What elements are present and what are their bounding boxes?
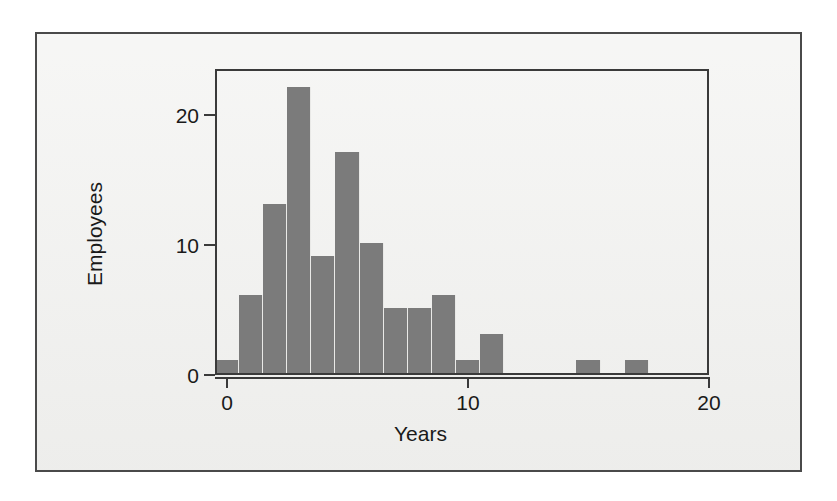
histogram-bar: [287, 87, 311, 373]
y-axis-title: Employees: [83, 154, 107, 314]
histogram-bar: [239, 295, 263, 373]
plot-frame: [215, 69, 709, 375]
histogram-bar: [360, 243, 384, 373]
histogram-bar: [432, 295, 456, 373]
histogram-bar: [456, 360, 480, 373]
histogram-bar: [335, 152, 359, 373]
x-axis-tick-label: 10: [456, 392, 479, 413]
y-axis-tick-labels: 01020: [135, 34, 199, 474]
histogram-bar: [217, 360, 239, 373]
y-axis-tick-label: 0: [187, 365, 199, 386]
y-axis-tick-mark: [204, 244, 215, 246]
histogram-bar: [311, 256, 335, 373]
y-axis-tick-mark: [204, 114, 215, 116]
figure-page: Employees 01020 01020 Years: [0, 0, 837, 501]
figure-frame: Employees 01020 01020 Years: [35, 32, 802, 472]
plot-bars-container: [217, 71, 707, 373]
histogram-chart: Employees 01020 01020 Years: [37, 34, 804, 474]
x-axis-tick-label: 20: [697, 392, 720, 413]
x-axis-tick-label: 0: [221, 392, 233, 413]
histogram-bar: [480, 334, 504, 373]
x-axis-tick-mark: [467, 377, 469, 388]
y-axis-tick-label: 20: [176, 104, 199, 125]
histogram-bar: [263, 204, 287, 373]
x-axis-line: [215, 377, 709, 379]
x-axis-tick-mark: [226, 377, 228, 388]
x-axis-tick-mark: [708, 377, 710, 388]
x-axis-title: Years: [37, 422, 804, 446]
histogram-bar: [384, 308, 408, 373]
y-axis-tick-label: 10: [176, 234, 199, 255]
histogram-bar: [576, 360, 600, 373]
histogram-bar: [625, 360, 649, 373]
y-axis-tick-mark: [204, 374, 215, 376]
histogram-bar: [408, 308, 432, 373]
